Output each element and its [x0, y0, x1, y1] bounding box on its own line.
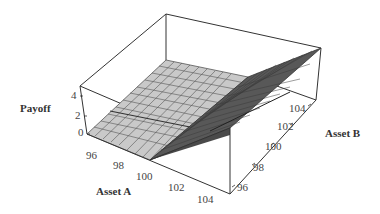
surface-plot — [0, 0, 380, 214]
y-tick-100: 100 — [265, 141, 282, 152]
z-tick-2: 2 — [75, 110, 81, 121]
x-tick-104: 104 — [197, 194, 214, 205]
y-axis-title: Asset B — [325, 128, 360, 139]
y-tick-98: 98 — [253, 162, 264, 173]
z-axis-title: Payoff — [20, 103, 51, 114]
x-tick-98: 98 — [113, 160, 124, 171]
y-tick-96: 96 — [237, 182, 248, 193]
x-axis-title: Asset A — [96, 186, 131, 197]
z-tick-4: 4 — [71, 90, 77, 101]
x-tick-100: 100 — [136, 171, 153, 182]
z-tick-0: 0 — [78, 127, 84, 138]
y-tick-104: 104 — [289, 103, 306, 114]
x-tick-96: 96 — [86, 150, 97, 161]
x-tick-102: 102 — [168, 182, 185, 193]
y-tick-102: 102 — [277, 121, 294, 132]
